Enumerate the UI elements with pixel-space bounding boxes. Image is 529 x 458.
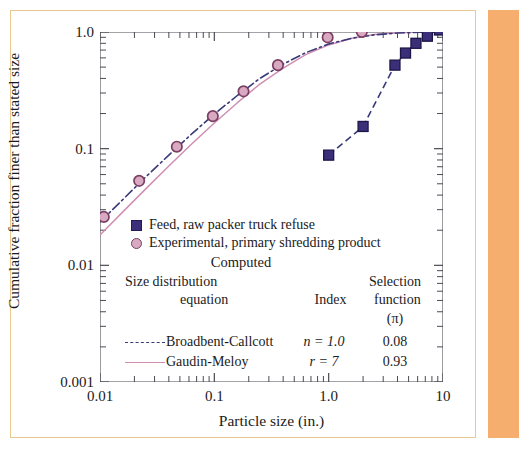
y-axis-title: Cumulative fraction finer than stated si… xyxy=(5,0,23,458)
chart-legend: Feed, raw packer truck refuse Experiment… xyxy=(125,216,435,371)
legend-table-header-row-3: (π) xyxy=(125,310,435,328)
feed-connector-line xyxy=(329,32,440,155)
x-axis-title: Particle size (in.) xyxy=(100,412,443,430)
legend-table-header-row-1: Size distribution Selection xyxy=(125,273,435,291)
legend-row-gaudin: Gaudin-Meloy r = 7 0.93 xyxy=(125,353,435,371)
legend-row-broadbent-name-cell: Broadbent-Callcott xyxy=(125,333,293,351)
y-tick-label: 0.001 xyxy=(38,374,94,391)
y-tick-label: 0.1 xyxy=(52,140,94,157)
data-point-feed xyxy=(422,32,432,41)
legend-col-index: Index xyxy=(301,291,359,309)
data-point-feed xyxy=(324,150,334,160)
data-point-experimental xyxy=(238,86,248,96)
data-point-experimental xyxy=(273,60,283,70)
legend-label-feed: Feed, raw packer truck refuse xyxy=(147,216,315,234)
data-point-experimental xyxy=(172,141,182,151)
orange-side-band xyxy=(488,10,519,438)
legend-computed-table: Size distribution Selection equation Ind… xyxy=(125,273,435,371)
figure-root: 1.0 0.1 0.01 0.001 0.01 0.1 1.0 10 Cumul… xyxy=(0,0,529,458)
x-tick-label: 1.0 xyxy=(319,388,338,405)
legend-col-selection-l1: Selection xyxy=(355,273,435,291)
data-point-experimental xyxy=(134,176,144,186)
legend-col-selection-l3: (π) xyxy=(355,310,435,328)
data-point-feed xyxy=(401,48,411,58)
legend-item-experimental: Experimental, primary shredding product xyxy=(125,234,435,252)
legend-row-broadbent-index: n = 1.0 xyxy=(293,333,355,351)
data-point-feed xyxy=(390,60,400,70)
legend-row-gaudin-selection: 0.93 xyxy=(355,353,435,371)
data-point-experimental xyxy=(322,32,332,42)
y-tick-label: 1.0 xyxy=(52,24,94,41)
x-tick-label: 0.1 xyxy=(205,388,224,405)
legend-col-equation-l2: equation xyxy=(125,291,301,309)
legend-label-experimental: Experimental, primary shredding product xyxy=(147,234,381,252)
legend-row-gaudin-index: r = 7 xyxy=(293,353,355,371)
legend-row-broadbent-name: Broadbent-Callcott xyxy=(166,334,273,349)
data-point-experimental xyxy=(208,111,218,121)
legend-table-header-row-2: equation Index function xyxy=(125,291,435,309)
data-point-experimental xyxy=(357,32,367,37)
chart-figure: 1.0 0.1 0.01 0.001 0.01 0.1 1.0 10 Cumul… xyxy=(0,0,476,448)
square-marker-icon xyxy=(125,220,147,231)
legend-col-equation-l1: Size distribution xyxy=(125,273,293,291)
data-point-feed xyxy=(434,32,443,35)
legend-col-selection-l2: function xyxy=(360,291,435,309)
data-point-feed xyxy=(358,121,368,131)
legend-row-gaudin-name: Gaudin-Meloy xyxy=(166,354,248,369)
circle-marker-icon xyxy=(125,238,147,249)
legend-computed-header: Computed xyxy=(125,253,357,272)
x-tick-label: 10 xyxy=(436,388,451,405)
legend-item-feed: Feed, raw packer truck refuse xyxy=(125,216,435,234)
data-point-experimental xyxy=(100,212,109,222)
legend-row-gaudin-name-cell: Gaudin-Meloy xyxy=(125,353,293,371)
legend-row-broadbent: Broadbent-Callcott n = 1.0 0.08 xyxy=(125,333,435,351)
data-point-feed xyxy=(411,38,421,48)
x-tick-label: 0.01 xyxy=(87,388,113,405)
y-tick-label: 0.01 xyxy=(46,257,94,274)
legend-row-broadbent-selection: 0.08 xyxy=(355,333,435,351)
